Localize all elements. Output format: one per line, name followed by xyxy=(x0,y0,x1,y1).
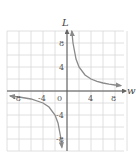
x-tick-label: 8 xyxy=(111,94,116,103)
x-axis-label: w xyxy=(127,85,136,96)
x-tick-label: -8 xyxy=(13,94,21,103)
y-tick-label: -8 xyxy=(56,135,64,144)
chart: w L -8 -4 0 4 8 8 4 -4 -8 xyxy=(0,0,136,153)
y-tick-label: -4 xyxy=(56,111,64,120)
y-tick-label: 4 xyxy=(59,63,64,72)
y-axis-label: L xyxy=(61,17,69,28)
x-tick-label: 0 xyxy=(57,94,62,103)
curves xyxy=(10,31,121,147)
x-tick-label: 4 xyxy=(88,94,93,103)
y-tick-label: 8 xyxy=(59,39,64,48)
x-tick-label: -4 xyxy=(38,94,46,103)
curve-branch xyxy=(10,96,62,147)
